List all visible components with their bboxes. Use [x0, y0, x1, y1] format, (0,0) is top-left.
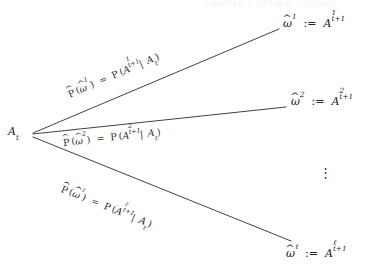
leaf-label-2: ^ω2 := A2t+1 [291, 94, 352, 107]
branch-line-1 [33, 29, 279, 133]
leaf-label-3: ^ωℓ := Aℓt+1 [286, 246, 345, 259]
vertical-ellipsis: ⋮ [319, 166, 332, 179]
root-symbol: At [8, 125, 19, 138]
tree-lines-svg [0, 0, 373, 269]
root-node-label: At [8, 126, 19, 137]
leaf-label-1: ^ω1 := A1t+1 [283, 16, 344, 29]
